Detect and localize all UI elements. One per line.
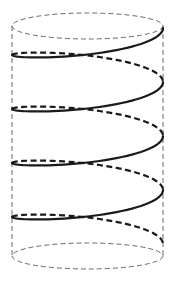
cylinder-bottom-ellipse	[12, 243, 163, 269]
cylinder-top-ellipse	[12, 13, 163, 39]
helix-curve	[12, 28, 163, 244]
cylinder-outline	[12, 13, 163, 269]
helix-cylinder-diagram	[0, 0, 172, 285]
diagram-canvas	[0, 0, 172, 285]
